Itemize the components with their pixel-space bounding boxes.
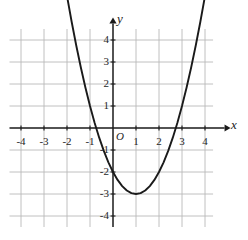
x-tick-label: 2 bbox=[149, 136, 169, 147]
coordinate-plane bbox=[0, 0, 248, 240]
y-tick-label: -3 bbox=[91, 188, 109, 199]
y-tick-label: 4 bbox=[91, 34, 109, 45]
x-tick-label: 4 bbox=[195, 136, 215, 147]
y-axis-arrowhead bbox=[109, 18, 116, 24]
x-axis-label: x bbox=[231, 118, 237, 131]
y-tick-label: -4 bbox=[91, 210, 109, 221]
y-tick-label: -2 bbox=[91, 166, 109, 177]
y-axis-label: y bbox=[117, 12, 123, 25]
x-axis-arrowhead bbox=[225, 124, 231, 131]
x-tick-label: 1 bbox=[126, 136, 146, 147]
x-tick-label: 3 bbox=[172, 136, 192, 147]
y-tick-label: 3 bbox=[91, 56, 109, 67]
x-tick-label: -3 bbox=[34, 136, 54, 147]
x-tick-label: -2 bbox=[57, 136, 77, 147]
origin-label: O bbox=[116, 131, 124, 142]
x-tick-label: -4 bbox=[11, 136, 31, 147]
y-tick-label: -1 bbox=[91, 144, 109, 155]
axes bbox=[10, 18, 231, 228]
y-tick-label: 2 bbox=[91, 78, 109, 89]
graph-figure: -4-3-2-112344321-1-2-3-4 y x O bbox=[0, 0, 248, 240]
parabola-curve bbox=[64, 0, 208, 194]
y-tick-label: 1 bbox=[91, 100, 109, 111]
